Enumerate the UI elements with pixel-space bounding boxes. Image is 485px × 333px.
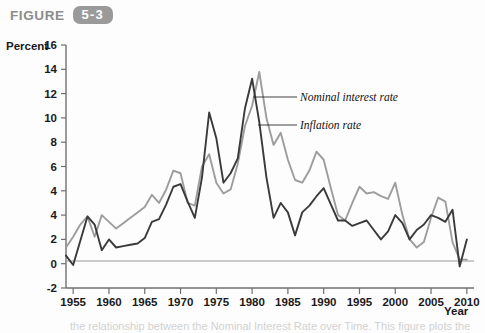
x-tick-label: 2005 [418, 296, 444, 308]
x-tick-label: 1990 [311, 296, 337, 308]
x-tick-label: 1960 [96, 296, 122, 308]
y-tick-label: 14 [44, 63, 57, 75]
x-tick-label: 2000 [382, 296, 408, 308]
x-tick-group: 1955196019651970197519801985199019952000… [60, 288, 479, 308]
y-tick-label: 12 [44, 88, 57, 100]
y-tick-label: 8 [51, 136, 58, 148]
interest-inflation-line-chart: 16141210864420-2 19551960196519701975198… [0, 0, 485, 333]
nominal-interest-rate-label: Nominal interest rate [299, 91, 398, 103]
y-tick-label: 4 [51, 209, 58, 221]
x-tick-label: 1980 [239, 296, 265, 308]
x-tick-label: 1955 [60, 296, 86, 308]
y-tick-label: 0 [51, 258, 57, 270]
series-line-inflation-rate [66, 79, 467, 267]
x-tick-label: 1975 [204, 296, 230, 308]
x-tick-label: 1970 [168, 296, 194, 308]
y-tick-group: 16141210864420-2 [44, 39, 66, 294]
inflation-rate-label: Inflation rate [299, 119, 361, 132]
x-tick-label: 1965 [132, 296, 158, 308]
x-tick-label: 1985 [275, 296, 301, 308]
x-tick-label: 1995 [347, 296, 373, 308]
caption-bleed-text: the relationship between the Nominal Int… [70, 320, 470, 332]
x-tick-label: 2010 [454, 296, 480, 308]
y-tick-label: 16 [44, 39, 57, 51]
y-tick-label: 10 [44, 112, 57, 124]
y-tick-label: 2 [51, 233, 57, 245]
y-tick-label: 6 [51, 161, 57, 173]
y-tick-label: -2 [47, 282, 57, 294]
y-tick-label: 4 [51, 185, 58, 197]
